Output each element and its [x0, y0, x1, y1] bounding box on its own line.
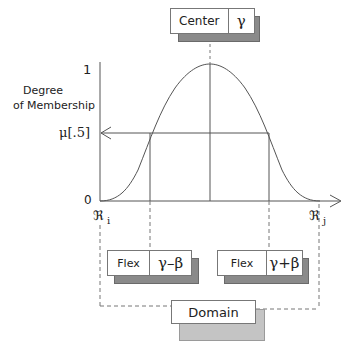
- x-label-right: ℜj: [309, 208, 326, 226]
- membership-diagram: [0, 0, 355, 341]
- y-tick-0: 0: [84, 193, 92, 207]
- y-tick-half: μ[.5]: [59, 125, 90, 140]
- flex-left-symbol: γ–β: [149, 251, 191, 275]
- center-label: Center: [171, 9, 228, 33]
- center-symbol: γ: [228, 9, 254, 33]
- domain-label: Domain: [188, 301, 238, 323]
- flex-right-symbol: γ+β: [266, 251, 302, 275]
- flex-right-label: Flex: [218, 251, 266, 275]
- y-axis-label-line2: of Membership: [13, 99, 95, 112]
- flex-left-label: Flex: [108, 251, 149, 275]
- x-label-left: ℜi: [93, 208, 110, 226]
- y-tick-1: 1: [83, 62, 91, 77]
- y-axis-label-line1: Degree: [23, 84, 63, 97]
